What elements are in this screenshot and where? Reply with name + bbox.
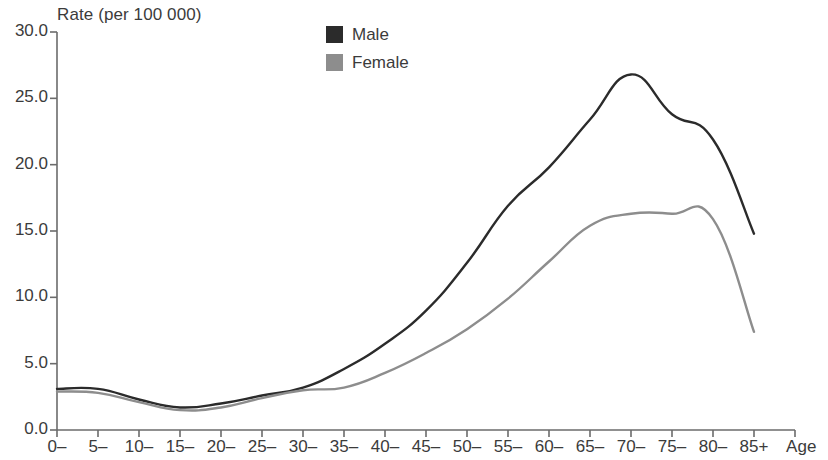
legend-swatch-female	[326, 54, 343, 71]
legend-item-female: Female	[326, 48, 409, 76]
legend-label-female: Female	[352, 54, 409, 71]
series-line-male	[57, 74, 754, 407]
chart-legend: Male Female	[326, 20, 409, 76]
chart-container: Rate (per 100 000) Age 0.05.010.015.020.…	[0, 0, 828, 460]
series-line-female	[57, 206, 754, 410]
legend-item-male: Male	[326, 20, 409, 48]
plot-area	[0, 0, 828, 460]
legend-swatch-male	[326, 26, 343, 43]
legend-label-male: Male	[352, 26, 389, 43]
